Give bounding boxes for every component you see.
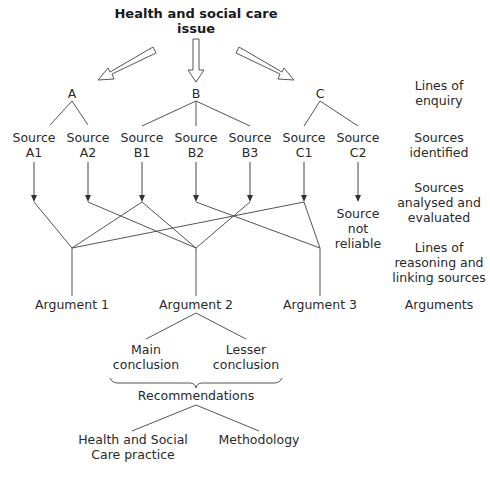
stage-sources-identified: Sourcesidentified <box>410 130 469 160</box>
diagram-title: Health and social care issue <box>114 6 277 36</box>
source-a1: SourceA1 <box>13 130 56 160</box>
lesser-conclusion: Lesserconclusion <box>213 342 279 372</box>
source-c1: SourceC1 <box>283 130 326 160</box>
outcome-methodology: Methodology <box>219 432 300 447</box>
stage-sources-analysed: Sourcesanalysed andevaluated <box>397 180 481 225</box>
source-b3: SourceB3 <box>229 130 272 160</box>
outcome-practice: Health and SocialCare practice <box>78 432 188 462</box>
enquiry-b: B <box>192 86 201 101</box>
source-b1: SourceB1 <box>121 130 164 160</box>
recommendations: Recommendations <box>138 388 254 403</box>
argument-2: Argument 2 <box>159 297 233 312</box>
hollow-arrow-down-icon <box>188 39 204 82</box>
brace-icon <box>110 378 282 388</box>
hollow-arrow-left-icon <box>98 47 156 80</box>
source-not-reliable: Sourcenotreliable <box>335 206 381 251</box>
main-conclusion: Mainconclusion <box>113 342 179 372</box>
enquiry-a: A <box>68 86 77 101</box>
source-c2: SourceC2 <box>337 130 380 160</box>
source-b2: SourceB2 <box>175 130 218 160</box>
enquiry-c: C <box>316 86 325 101</box>
argument-3: Argument 3 <box>283 297 357 312</box>
diagram-lines <box>0 0 490 478</box>
argument-1: Argument 1 <box>35 297 109 312</box>
stage-lines-of-reasoning: Lines ofreasoning andlinking sources <box>392 240 485 285</box>
hollow-arrow-right-icon <box>236 47 294 80</box>
stage-lines-of-enquiry: Lines ofenquiry <box>415 78 464 108</box>
stage-arguments: Arguments <box>405 297 474 312</box>
source-a2: SourceA2 <box>67 130 110 160</box>
